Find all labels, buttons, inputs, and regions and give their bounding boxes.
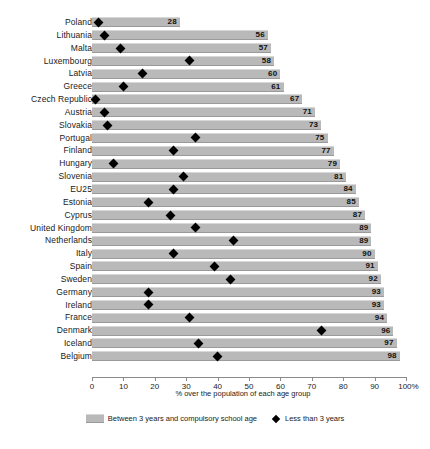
- bar-value-label: 77: [92, 146, 331, 156]
- chart-row: EU2584: [0, 183, 430, 196]
- bar-track: 90: [92, 249, 406, 259]
- chart-row: Netherlands89: [0, 234, 430, 247]
- row-label: Luxembourg: [44, 55, 92, 68]
- bar-value-label: 85: [92, 197, 356, 207]
- row-label: Austria: [65, 106, 92, 119]
- chart-row: Ireland93: [0, 299, 430, 312]
- chart-row: Spain91: [0, 260, 430, 273]
- bar-track: 84: [92, 184, 406, 194]
- x-axis-tick: [123, 377, 124, 381]
- legend-bar-label: Between 3 years and compulsory school ag…: [108, 414, 257, 423]
- bar-track: 97: [92, 338, 406, 348]
- row-label: Denmark: [57, 324, 92, 337]
- bar-track: 98: [92, 351, 406, 361]
- row-label: EU25: [70, 183, 92, 196]
- bar-value-label: 81: [92, 172, 343, 182]
- row-label: Greece: [64, 80, 92, 93]
- x-axis-tick: [312, 377, 313, 381]
- row-label: Italy: [76, 247, 92, 260]
- row-label: Belgium: [61, 350, 92, 363]
- bar-value-label: 89: [92, 223, 368, 233]
- bar-value-label: 71: [92, 107, 312, 117]
- row-label: Latvia: [69, 67, 92, 80]
- bar-track: 94: [92, 313, 406, 323]
- chart-row: Lithuania56: [0, 29, 430, 42]
- x-axis-tick: [280, 377, 281, 381]
- chart-row: Greece61: [0, 80, 430, 93]
- chart-row: Estonia85: [0, 196, 430, 209]
- bar-value-label: 94: [92, 313, 384, 323]
- chart-row: Hungary79: [0, 157, 430, 170]
- bar-track: 81: [92, 172, 406, 182]
- bar-track: 85: [92, 197, 406, 207]
- legend-item-bar: Between 3 years and compulsory school ag…: [86, 414, 257, 423]
- chart-row: Poland28: [0, 16, 430, 29]
- chart-row: Italy90: [0, 247, 430, 260]
- bar-value-label: 75: [92, 133, 325, 143]
- bar-track: 71: [92, 107, 406, 117]
- bar-value-label: 98: [92, 351, 397, 361]
- row-label: Sweden: [61, 273, 92, 286]
- x-axis-tick: [406, 377, 407, 381]
- bar-track: 56: [92, 30, 406, 40]
- bar-value-label: 84: [92, 184, 353, 194]
- row-label: Netherlands: [45, 234, 92, 247]
- row-label: Lithuania: [57, 29, 92, 42]
- bar-track: 73: [92, 120, 406, 130]
- chart-row: Portugal75: [0, 132, 430, 145]
- bar-track: 96: [92, 326, 406, 336]
- row-label: Ireland: [65, 299, 92, 312]
- row-label: Poland: [65, 16, 92, 29]
- bar-value-label: 93: [92, 287, 381, 297]
- legend-bar-swatch: [86, 414, 104, 423]
- bar-value-label: 56: [92, 30, 265, 40]
- chart-row: Latvia60: [0, 67, 430, 80]
- x-axis-tick: [186, 377, 187, 381]
- bar-chart: Poland28Lithuania56Malta57Luxembourg58La…: [0, 0, 430, 449]
- chart-legend: Between 3 years and compulsory school ag…: [0, 414, 430, 423]
- chart-row: Slovakia73: [0, 119, 430, 132]
- row-label: Slovakia: [59, 119, 92, 132]
- row-label: Iceland: [64, 337, 92, 350]
- chart-row: France94: [0, 311, 430, 324]
- x-axis-tick: [249, 377, 250, 381]
- bar-track: 91: [92, 261, 406, 271]
- bar-value-label: 79: [92, 159, 337, 169]
- chart-row: Austria71: [0, 106, 430, 119]
- row-label: Malta: [71, 42, 92, 55]
- row-label: Slovenia: [59, 170, 92, 183]
- legend-item-marker: Less than 3 years: [271, 414, 344, 423]
- row-label: Hungary: [59, 157, 92, 170]
- chart-row: Czech Republic67: [0, 93, 430, 106]
- bar-value-label: 91: [92, 261, 375, 271]
- bar-track: 87: [92, 210, 406, 220]
- chart-rows: Poland28Lithuania56Malta57Luxembourg58La…: [0, 16, 430, 363]
- bar-value-label: 73: [92, 120, 318, 130]
- chart-row: Malta57: [0, 42, 430, 55]
- chart-row: Sweden92: [0, 273, 430, 286]
- chart-row: Iceland97: [0, 337, 430, 350]
- x-axis-title: % over the population of each age group: [0, 389, 430, 398]
- chart-row: Belgium98: [0, 350, 430, 363]
- chart-row: Germany93: [0, 286, 430, 299]
- bar-track: 61: [92, 82, 406, 92]
- bar-track: 79: [92, 159, 406, 169]
- chart-row: United Kingdom89: [0, 222, 430, 235]
- bar-value-label: 96: [92, 326, 390, 336]
- chart-row: Finland77: [0, 144, 430, 157]
- x-axis: 0102030405060708090100%: [92, 377, 406, 378]
- bar-track: 60: [92, 69, 406, 79]
- bar-track: 93: [92, 287, 406, 297]
- row-label: Spain: [70, 260, 92, 273]
- row-label: France: [65, 311, 92, 324]
- bar-value-label: 60: [92, 69, 277, 79]
- bar-value-label: 93: [92, 300, 381, 310]
- chart-row: Cyprus87: [0, 209, 430, 222]
- bar-value-label: 90: [92, 249, 372, 259]
- bar-value-label: 97: [92, 338, 394, 348]
- x-axis-title-text: % over the population of each age group: [119, 389, 310, 398]
- chart-row: Slovenia81: [0, 170, 430, 183]
- bar-value-label: 28: [92, 17, 177, 27]
- bar-value-label: 87: [92, 210, 362, 220]
- x-axis-tick: [343, 377, 344, 381]
